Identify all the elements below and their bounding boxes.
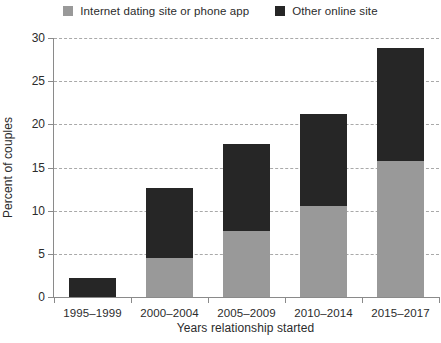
y-tick-label-30: 30 (32, 32, 45, 44)
legend-swatch-other-online-icon (275, 6, 285, 16)
y-tick-label-15: 15 (32, 162, 45, 174)
x-tick (54, 297, 55, 303)
x-axis-ticks: 1995–19992000–20042005–20092010–20142015… (54, 38, 439, 297)
legend-label-dating-app: Internet dating site or phone app (80, 5, 249, 17)
x-tick (439, 297, 440, 303)
y-tick-label-10: 10 (32, 205, 45, 217)
x-tick-label: 2005–2009 (217, 307, 275, 320)
x-tick (208, 297, 209, 303)
legend-item-other-online[interactable]: Other online site (275, 5, 377, 17)
y-tick-label-25: 25 (32, 75, 45, 87)
legend-swatch-dating-app-icon (63, 6, 73, 16)
y-tick-label-0: 0 (38, 291, 45, 303)
x-tick (131, 297, 132, 303)
y-axis-title: Percent of couples (0, 38, 16, 297)
y-tick-label-20: 20 (32, 118, 45, 130)
x-tick-label: 2000–2004 (140, 307, 198, 320)
stacked-bar-chart: Internet dating site or phone app Other … (0, 0, 441, 343)
x-tick (362, 297, 363, 303)
chart-legend: Internet dating site or phone app Other … (0, 5, 441, 17)
legend-item-dating-app[interactable]: Internet dating site or phone app (63, 5, 249, 17)
x-tick-label: 2015–2017 (371, 307, 429, 320)
x-tick-label: 1995–1999 (63, 307, 121, 320)
legend-label-other-online: Other online site (292, 5, 377, 17)
x-tick (285, 297, 286, 303)
y-tick-label-5: 5 (38, 248, 45, 260)
plot-area: 051015202530 1995–19992000–20042005–2009… (53, 38, 439, 298)
x-tick-label: 2010–2014 (294, 307, 352, 320)
x-axis-title: Years relationship started (53, 322, 438, 335)
